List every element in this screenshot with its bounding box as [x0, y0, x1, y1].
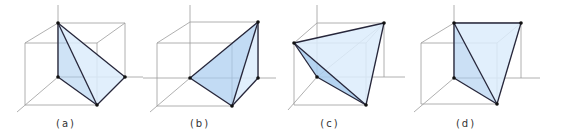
panel-label-a: (a) — [46, 118, 86, 129]
panel-c — [288, 5, 405, 110]
panel-a — [17, 5, 143, 112]
panel-label-c: (c) — [310, 118, 350, 129]
panel-label-d: (d) — [446, 118, 486, 129]
panel-label-b: (b) — [180, 118, 220, 129]
panel-b — [143, 5, 276, 112]
panel-d — [414, 5, 540, 112]
